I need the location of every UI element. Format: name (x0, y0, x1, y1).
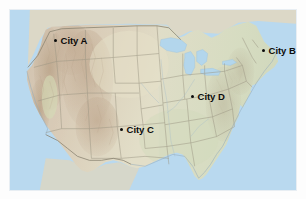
map-figure: City A City B City C City D (0, 0, 306, 199)
city-dot-icon (54, 39, 57, 42)
city-label-a: City A (61, 36, 88, 46)
city-label-c: City C (127, 125, 154, 135)
city-marker-b[interactable]: City B (262, 46, 296, 56)
city-dot-icon (191, 95, 194, 98)
city-marker-d[interactable]: City D (191, 92, 225, 102)
city-label-d: City D (198, 92, 225, 102)
city-dot-icon (262, 49, 265, 52)
us-map-graphic (10, 10, 296, 190)
city-label-b: City B (269, 46, 296, 56)
city-marker-a[interactable]: City A (54, 36, 87, 46)
city-dot-icon (120, 128, 123, 131)
city-marker-c[interactable]: City C (120, 125, 154, 135)
map-frame: City A City B City C City D (9, 9, 297, 191)
